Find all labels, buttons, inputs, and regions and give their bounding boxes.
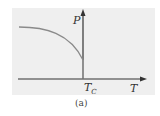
- tc-tick-label: TC: [84, 82, 97, 96]
- x-axis-label: T: [130, 83, 137, 94]
- y-axis-arrow-icon: [81, 9, 86, 16]
- figure-caption: (a): [75, 99, 87, 108]
- tc-subscript: C: [91, 88, 96, 96]
- y-axis-label: P: [73, 15, 80, 26]
- x-axis-arrow-icon: [140, 77, 147, 82]
- order-parameter-curve: [19, 27, 83, 60]
